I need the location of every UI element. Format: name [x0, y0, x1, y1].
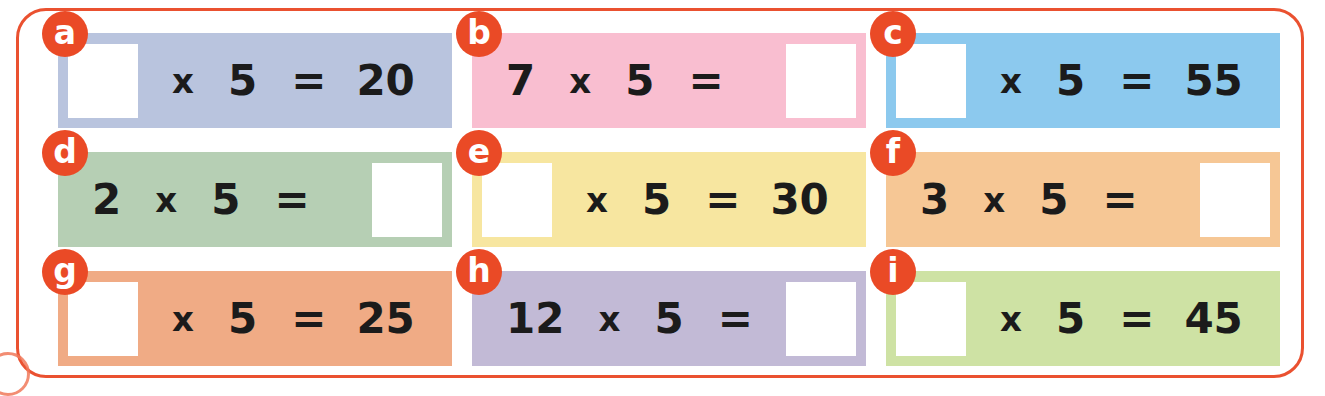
operand-a-b: 7: [506, 60, 535, 102]
operator-d: x: [155, 183, 177, 217]
operator-a: x: [172, 64, 194, 98]
operand-b-f: 5: [1039, 179, 1068, 221]
result-g: 25: [356, 298, 414, 340]
problem-bar-c: x5=55: [886, 33, 1280, 128]
operand-b-a: 5: [228, 60, 257, 102]
problem-badge-f: f: [870, 130, 916, 176]
problem-d: 2x5=d: [58, 152, 452, 247]
operator-h: x: [598, 302, 620, 336]
operand-b-b: 5: [625, 60, 654, 102]
problem-badge-i: i: [870, 249, 916, 295]
problem-bar-h: 12x5=: [472, 271, 866, 366]
answer-box-i[interactable]: [896, 282, 966, 356]
problem-badge-e: e: [456, 130, 502, 176]
problem-a: x5=20a: [58, 33, 452, 128]
problem-c: x5=55c: [886, 33, 1280, 128]
equals-sign-f: =: [1102, 179, 1137, 221]
operand-b-h: 5: [654, 298, 683, 340]
equals-sign-h: =: [718, 298, 753, 340]
equals-sign-i: =: [1119, 298, 1154, 340]
result-c: 55: [1184, 60, 1242, 102]
problem-bar-a: x5=20: [58, 33, 452, 128]
operator-f: x: [983, 183, 1005, 217]
operand-a-d: 2: [92, 179, 121, 221]
operand-b-c: 5: [1056, 60, 1085, 102]
problem-badge-d: d: [42, 130, 88, 176]
operand-b-g: 5: [228, 298, 257, 340]
problem-bar-i: x5=45: [886, 271, 1280, 366]
operator-g: x: [172, 302, 194, 336]
equals-sign-c: =: [1119, 60, 1154, 102]
problem-bar-g: x5=25: [58, 271, 452, 366]
operator-b: x: [569, 64, 591, 98]
operator-e: x: [586, 183, 608, 217]
problem-i: x5=45i: [886, 271, 1280, 366]
worksheet-page: x5=20a7x5=bx5=55c2x5=dx5=30e3x5=fx5=25g1…: [0, 0, 1325, 396]
answer-box-h[interactable]: [786, 282, 856, 356]
problem-bar-e: x5=30: [472, 152, 866, 247]
answer-box-b[interactable]: [786, 44, 856, 118]
problem-f: 3x5=f: [886, 152, 1280, 247]
result-a: 20: [356, 60, 414, 102]
answer-box-g[interactable]: [68, 282, 138, 356]
problem-badge-g: g: [42, 249, 88, 295]
operator-c: x: [1000, 64, 1022, 98]
problem-bar-f: 3x5=: [886, 152, 1280, 247]
problem-badge-h: h: [456, 249, 502, 295]
operand-b-d: 5: [211, 179, 240, 221]
operand-b-e: 5: [642, 179, 671, 221]
equals-sign-e: =: [705, 179, 740, 221]
answer-box-f[interactable]: [1200, 163, 1270, 237]
operand-b-i: 5: [1056, 298, 1085, 340]
problem-h: 12x5=h: [472, 271, 866, 366]
equals-sign-g: =: [291, 298, 326, 340]
problem-g: x5=25g: [58, 271, 452, 366]
equals-sign-b: =: [688, 60, 723, 102]
problem-bar-b: 7x5=: [472, 33, 866, 128]
result-e: 30: [770, 179, 828, 221]
equals-sign-a: =: [291, 60, 326, 102]
problem-grid: x5=20a7x5=bx5=55c2x5=dx5=30e3x5=fx5=25g1…: [0, 0, 1325, 396]
operand-a-h: 12: [506, 298, 564, 340]
problem-badge-c: c: [870, 11, 916, 57]
answer-box-c[interactable]: [896, 44, 966, 118]
result-i: 45: [1184, 298, 1242, 340]
problem-bar-d: 2x5=: [58, 152, 452, 247]
problem-badge-a: a: [42, 11, 88, 57]
answer-box-a[interactable]: [68, 44, 138, 118]
problem-e: x5=30e: [472, 152, 866, 247]
operator-i: x: [1000, 302, 1022, 336]
answer-box-e[interactable]: [482, 163, 552, 237]
equals-sign-d: =: [274, 179, 309, 221]
operand-a-f: 3: [920, 179, 949, 221]
answer-box-d[interactable]: [372, 163, 442, 237]
problem-badge-b: b: [456, 11, 502, 57]
problem-b: 7x5=b: [472, 33, 866, 128]
